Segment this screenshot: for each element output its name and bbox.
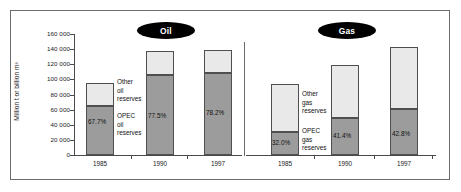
gas-panel-title-text: Gas: [339, 26, 355, 36]
y-tick-label-40000: 40 000: [24, 122, 70, 128]
annotation-line: reserves: [302, 107, 327, 116]
y-tick-mark: [70, 140, 75, 141]
bar-segment-other-oil-1997: [204, 50, 232, 73]
oil-panel-title-text: Oil: [160, 26, 172, 36]
bar-label-gas-1997: 42.8%: [392, 131, 410, 137]
bar-label-gas-1990: 41.4%: [333, 133, 351, 139]
y-tick-mark: [70, 155, 75, 156]
y-tick-label-100000: 100 000: [24, 76, 70, 82]
annotation-line: gas: [302, 136, 327, 145]
y-tick-mark: [70, 110, 75, 111]
y-tick-mark: [70, 95, 75, 96]
annotation-line: oil: [117, 87, 142, 96]
y-tick-label-20000: 20 000: [24, 137, 70, 143]
annotation-line: reserves: [117, 129, 142, 138]
x-label-gas-1985: 1985: [265, 161, 305, 167]
bar-segment-other-gas-1985: [271, 84, 299, 132]
x-tick-mark: [187, 155, 188, 159]
bar-oil-1997[interactable]: [204, 50, 232, 155]
annotation-line: gas: [302, 99, 327, 108]
bar-gas-1997[interactable]: [390, 47, 418, 155]
annotation-line: reserves: [302, 144, 327, 153]
annotation-other-oil-reserves: Other oil reserves: [117, 78, 142, 104]
x-label-oil-1985: 1985: [80, 161, 120, 167]
y-tick-label-0: 0: [24, 152, 70, 158]
x-axis-line-oil: [74, 155, 242, 156]
bar-segment-other-oil-1985: [86, 83, 114, 106]
bar-gas-1990[interactable]: [331, 65, 359, 155]
x-tick-mark: [131, 155, 132, 159]
annotation-line: OPEC: [117, 112, 142, 121]
annotation-line: oil: [117, 121, 142, 130]
x-label-gas-1990: 1990: [325, 161, 365, 167]
gas-panel-title-badge: Gas: [318, 22, 376, 39]
bar-label-oil-1997: 78.2%: [206, 110, 224, 116]
bar-segment-other-gas-1997: [390, 47, 418, 109]
x-label-oil-1997: 1997: [198, 161, 238, 167]
bar-segment-other-oil-1990: [146, 51, 174, 74]
bar-segment-opec-oil-1985: [86, 106, 114, 155]
y-tick-mark: [70, 79, 75, 80]
panel-divider: [244, 42, 245, 156]
x-tick-mark: [314, 155, 315, 159]
bar-label-oil-1990: 77.5%: [148, 113, 166, 119]
y-tick-label-60000: 60 000: [24, 107, 70, 113]
x-tick-mark: [432, 155, 433, 159]
x-axis-line-gas: [246, 155, 436, 156]
bar-oil-1990[interactable]: [146, 51, 174, 155]
x-tick-mark: [374, 155, 375, 159]
y-tick-mark: [70, 49, 75, 50]
x-label-gas-1997: 1997: [384, 161, 424, 167]
annotation-line: Other: [117, 78, 142, 87]
y-axis-ticks: 160 000 140 000 120 000 100 000 80 000 6…: [22, 0, 70, 192]
annotation-opec-gas-reserves: OPEC gas reserves: [302, 127, 327, 153]
y-tick-label-120000: 120 000: [24, 61, 70, 67]
y-tick-mark: [70, 125, 75, 126]
annotation-line: OPEC: [302, 127, 327, 136]
annotation-opec-oil-reserves: OPEC oil reserves: [117, 112, 142, 138]
y-axis-title: Million t or billion m³: [13, 37, 20, 147]
bar-label-oil-1985: 67.7%: [88, 119, 106, 125]
annotation-line: Other: [302, 90, 327, 99]
y-tick-label-140000: 140 000: [24, 46, 70, 52]
y-tick-label-80000: 80 000: [24, 92, 70, 98]
annotation-other-gas-reserves: Other gas reserves: [302, 90, 327, 116]
bar-label-gas-1985: 32.0%: [272, 140, 290, 146]
y-tick-mark: [70, 64, 75, 65]
bar-segment-other-gas-1990: [331, 65, 359, 118]
chart-figure: Million t or billion m³ 160 000 140 000 …: [0, 0, 461, 192]
y-tick-mark: [70, 34, 75, 35]
x-label-oil-1990: 1990: [140, 161, 180, 167]
oil-panel-title-badge: Oil: [137, 22, 195, 39]
annotation-line: reserves: [117, 95, 142, 104]
y-tick-label-160000: 160 000: [24, 31, 70, 37]
